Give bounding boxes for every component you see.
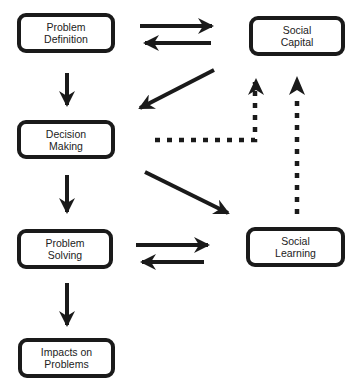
node-label: Making <box>49 140 83 152</box>
node-label: Capital <box>281 36 314 48</box>
node-label: Learning <box>275 247 316 259</box>
node-label: Decision <box>46 128 86 140</box>
node-decision-making: Decision Making <box>17 120 115 159</box>
arrow-decision-to-learning <box>145 172 228 213</box>
node-label: Solving <box>48 249 82 261</box>
node-label: Definition <box>44 33 88 45</box>
arrow-decision-to-capital-dotted <box>155 78 264 140</box>
node-label: Problem <box>45 237 84 249</box>
node-social-capital: Social Capital <box>249 16 345 56</box>
node-label: Social <box>283 24 312 36</box>
node-impacts-on-problems: Impacts on Problems <box>18 338 115 378</box>
arrow-learning-to-capital-dotted <box>289 76 305 214</box>
node-label: Problems <box>44 358 88 370</box>
node-problem-solving: Problem Solving <box>17 229 113 269</box>
node-social-learning: Social Learning <box>246 227 345 267</box>
edges-layer <box>0 0 357 391</box>
node-label: Social <box>281 235 310 247</box>
arrow-capital-to-decision <box>140 70 214 108</box>
node-label: Impacts on <box>41 346 92 358</box>
node-problem-definition: Problem Definition <box>17 13 115 53</box>
node-label: Problem <box>46 21 85 33</box>
